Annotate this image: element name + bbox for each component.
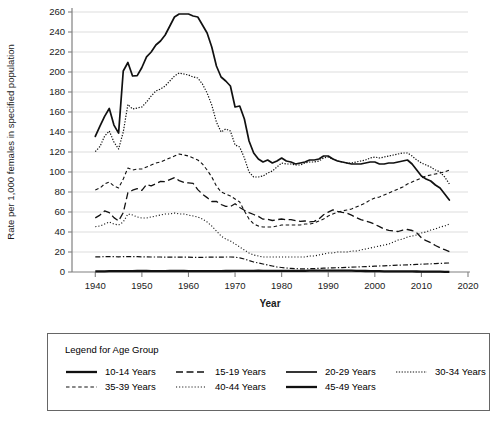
y-tick-label: 60 <box>54 206 65 217</box>
y-tick-label: 0 <box>60 266 65 277</box>
x-tick-label: 1980 <box>271 280 292 291</box>
y-axis-title: Rate per 1,000 females in specified popu… <box>5 44 16 239</box>
y-tick-label: 260 <box>49 6 65 17</box>
y-tick-label: 20 <box>54 246 65 257</box>
x-tick-label: 1940 <box>85 280 106 291</box>
chart-legend: Legend for Age Group 10-14 Years15-19 Ye… <box>47 333 490 411</box>
x-tick-label: 2010 <box>411 280 432 291</box>
legend-item[interactable]: 40-44 Years <box>175 381 285 392</box>
x-tick-label: 2020 <box>457 280 478 291</box>
legend-item[interactable]: 10-14 Years <box>65 366 175 377</box>
legend-item-label: 45-49 Years <box>325 381 376 392</box>
x-axis-title: Year <box>259 298 280 309</box>
x-tick-label: 1990 <box>318 280 339 291</box>
x-tick-label: 2000 <box>364 280 385 291</box>
legend-item-label: 10-14 Years <box>105 366 156 377</box>
series-line-40-44-years <box>95 213 449 257</box>
x-tick-label: 1960 <box>178 280 199 291</box>
legend-item-label: 15-19 Years <box>215 366 266 377</box>
series-line-35-39-years <box>95 154 449 227</box>
y-tick-label: 140 <box>49 126 65 137</box>
legend-line-swatch <box>65 382 98 392</box>
y-tick-label: 160 <box>49 106 65 117</box>
series-line-15-19-years <box>95 178 449 252</box>
series-line-30-34-years <box>95 73 449 184</box>
x-tick-label: 1970 <box>224 280 245 291</box>
chart-container: 0204060801001201401601802002202402601940… <box>0 0 500 423</box>
legend-title: Legend for Age Group <box>65 344 159 355</box>
legend-line-swatch <box>285 367 318 377</box>
y-tick-label: 80 <box>54 186 65 197</box>
legend-row-2: 35-39 Years40-44 Years45-49 Years <box>65 381 395 392</box>
y-tick-label: 240 <box>49 26 65 37</box>
y-tick-label: 220 <box>49 46 65 57</box>
y-tick-label: 100 <box>49 166 65 177</box>
legend-item[interactable]: 20-29 Years <box>285 366 395 377</box>
series-line-45-49-years <box>95 257 449 269</box>
legend-item[interactable]: 35-39 Years <box>65 381 175 392</box>
y-tick-label: 180 <box>49 86 65 97</box>
legend-line-swatch <box>285 382 318 392</box>
legend-row-1: 10-14 Years15-19 Years20-29 Years30-34 Y… <box>65 366 500 377</box>
y-tick-label: 120 <box>49 146 65 157</box>
legend-item[interactable]: 45-49 Years <box>285 381 395 392</box>
y-tick-label: 200 <box>49 66 65 77</box>
legend-item-label: 35-39 Years <box>105 381 156 392</box>
legend-item-label: 40-44 Years <box>215 381 266 392</box>
legend-item-label: 20-29 Years <box>325 366 376 377</box>
legend-line-swatch <box>175 382 208 392</box>
legend-line-swatch <box>65 367 98 377</box>
x-tick-label: 1950 <box>131 280 152 291</box>
legend-item-label: 30-34 Years <box>435 366 486 377</box>
series-line-10-14-years <box>95 271 449 272</box>
legend-item[interactable]: 15-19 Years <box>175 366 285 377</box>
y-tick-label: 40 <box>54 226 65 237</box>
legend-line-swatch <box>395 367 428 377</box>
legend-line-swatch <box>175 367 208 377</box>
legend-item[interactable]: 30-34 Years <box>395 366 500 377</box>
